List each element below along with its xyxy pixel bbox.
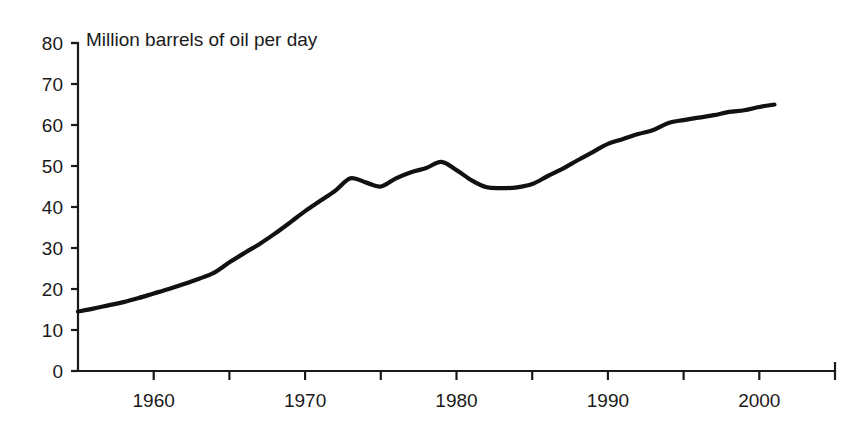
y-axis-tick-label: 60 <box>42 115 63 136</box>
axis-lines <box>78 43 835 371</box>
y-axis-tick-label: 70 <box>42 74 63 95</box>
x-axis-tick-label: 1960 <box>133 390 175 411</box>
chart-container: 01020304050607080 19601970198019902000 M… <box>0 0 866 440</box>
y-axis-tick-label: 40 <box>42 197 63 218</box>
x-axis-tick-labels: 19601970198019902000 <box>133 390 781 411</box>
y-axis-tick-label: 80 <box>42 33 63 54</box>
x-axis-tick-label: 1970 <box>284 390 326 411</box>
y-axis-tick-label: 20 <box>42 279 63 300</box>
y-axis-tick-labels: 01020304050607080 <box>42 33 63 382</box>
y-axis-tick-label: 10 <box>42 320 63 341</box>
line-chart: 01020304050607080 19601970198019902000 M… <box>0 0 866 440</box>
y-axis-tick-label: 0 <box>52 361 63 382</box>
x-axis-tick-label: 2000 <box>738 390 780 411</box>
series-line-world-oil-production <box>78 105 774 312</box>
x-axis-tick-label: 1990 <box>587 390 629 411</box>
y-axis-tick-label: 50 <box>42 156 63 177</box>
x-axis-ticks <box>154 371 835 380</box>
chart-axes <box>71 43 835 371</box>
x-axis-tick-label: 1980 <box>435 390 477 411</box>
data-series-line <box>78 105 774 312</box>
y-axis-tick-label: 30 <box>42 238 63 259</box>
chart-title: Million barrels of oil per day <box>86 29 318 50</box>
